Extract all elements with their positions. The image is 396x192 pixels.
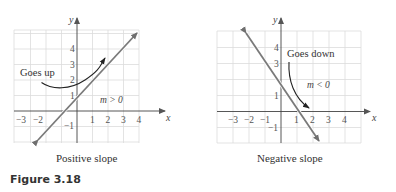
y-axis-label: y — [68, 14, 74, 25]
x-axis-label: x — [165, 112, 171, 123]
positive-slope-graph: x y −3 −2 1 2 3 4 4 3 2 1 −1 Goes up m >… — [14, 14, 171, 143]
svg-text:3: 3 — [70, 60, 75, 70]
svg-text:−3: −3 — [228, 115, 238, 125]
svg-text:3: 3 — [326, 115, 331, 125]
svg-text:2: 2 — [106, 115, 111, 125]
svg-text:−1: −1 — [64, 121, 74, 131]
svg-text:1: 1 — [90, 115, 95, 125]
svg-text:3: 3 — [121, 115, 126, 125]
grid — [14, 30, 139, 143]
slope-label: m > 0 — [100, 95, 123, 105]
svg-text:2: 2 — [70, 75, 75, 85]
goes-up-annotation: Goes up — [20, 67, 55, 78]
x-tick-labels: −3 −2 −1 1 2 3 4 — [228, 115, 347, 125]
svg-text:−2: −2 — [244, 115, 254, 125]
svg-text:−1: −1 — [268, 123, 278, 133]
svg-text:4: 4 — [137, 115, 142, 125]
svg-text:1: 1 — [274, 91, 279, 101]
negative-slope-graph: x y −3 −2 −1 1 2 3 4 4 3 1 −1 Goes down … — [217, 14, 377, 143]
figure-label: Figure 3.18 — [10, 173, 81, 186]
svg-text:4: 4 — [274, 43, 279, 53]
negative-slope-caption: Negative slope — [257, 152, 323, 164]
svg-text:4: 4 — [70, 44, 75, 54]
y-axis-label: y — [272, 14, 278, 25]
x-axis-label: x — [371, 112, 377, 123]
svg-text:−3: −3 — [16, 115, 26, 125]
svg-text:2: 2 — [310, 115, 315, 125]
svg-text:−2: −2 — [33, 115, 43, 125]
goes-down-annotation: Goes down — [287, 48, 335, 59]
svg-text:4: 4 — [342, 115, 347, 125]
positive-slope-caption: Positive slope — [56, 152, 117, 164]
svg-text:1: 1 — [294, 115, 299, 125]
svg-text:3: 3 — [274, 59, 279, 69]
slope-label: m < 0 — [307, 80, 330, 90]
x-tick-labels: −3 −2 1 2 3 4 — [16, 115, 142, 125]
